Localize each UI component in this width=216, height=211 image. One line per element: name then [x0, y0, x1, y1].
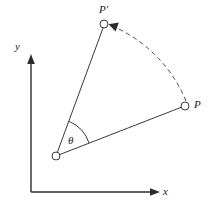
x-axis-arrowhead [150, 188, 160, 196]
point-marker-vertex [52, 152, 60, 160]
angle-theta-label: θ [68, 135, 73, 146]
point-label-p: P [194, 99, 201, 110]
radius-line-to-p [56, 107, 182, 156]
point-label-p-prime: P′ [99, 4, 108, 15]
rotation-arc-dashed [110, 25, 186, 101]
y-axis-arrowhead [27, 54, 35, 64]
point-marker-p [181, 102, 189, 110]
point-marker-p-prime [100, 20, 108, 28]
y-axis-label: y [15, 41, 20, 52]
rotation-arc-arrowhead [109, 23, 119, 32]
rotation-diagram: y x P′ P θ [0, 0, 216, 211]
diagram-canvas [0, 0, 216, 211]
x-axis-label: x [163, 186, 168, 197]
radius-line-to-p-prime [56, 28, 103, 156]
